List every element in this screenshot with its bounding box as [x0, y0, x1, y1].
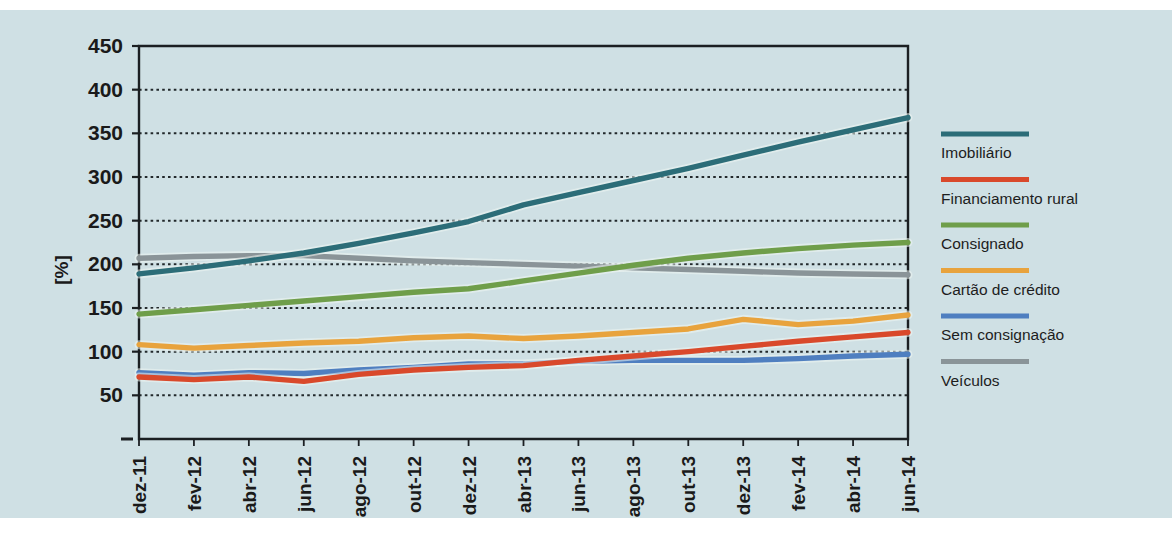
x-tick-label: out-13	[678, 456, 699, 513]
legend-group: ImobiliárioFinanciamento ruralConsignado…	[941, 134, 1078, 389]
x-tick-label: dez-13	[733, 456, 754, 515]
x-tick-labels-group: dez-11fev-12abr-12jun-12ago-12out-12dez-…	[129, 456, 919, 518]
legend-item[interactable]: Financiamento rural	[941, 180, 1078, 207]
y-tick-label: 400	[88, 78, 123, 101]
x-tick-label: abr-12	[239, 456, 260, 513]
y-tick-label: 100	[88, 340, 123, 363]
legend-item[interactable]: Sem consignação	[941, 316, 1064, 343]
y-tick-label: 250	[88, 209, 123, 232]
line-chart: 45040035030025020015010050 dez-11fev-12a…	[0, 0, 1172, 546]
y-tick-label: 350	[88, 121, 123, 144]
legend-label: Veículos	[941, 372, 1000, 389]
y-tick-label: 450	[88, 34, 123, 57]
x-tick-label: jun-14	[898, 456, 919, 513]
y-axis-title-group: [%]	[51, 255, 72, 285]
y-tick-labels-group: 45040035030025020015010050	[88, 34, 123, 406]
legend-item[interactable]: Consignado	[941, 225, 1029, 252]
y-tick-label: 300	[88, 165, 123, 188]
legend-label: Financiamento rural	[941, 190, 1078, 207]
y-tick-label: 50	[100, 383, 123, 406]
legend-item[interactable]: Cartão de crédito	[941, 271, 1060, 298]
series-group	[139, 118, 908, 382]
x-tick-label: fev-12	[184, 456, 205, 511]
y-axis-title: [%]	[51, 255, 72, 285]
x-tick-label: jun-12	[294, 456, 315, 513]
x-tick-label: out-12	[404, 456, 425, 513]
legend-label: Cartão de crédito	[941, 281, 1060, 298]
x-tick-label: jun-13	[568, 456, 589, 513]
y-tick-label: 200	[88, 252, 123, 275]
x-tick-label: dez-12	[459, 456, 480, 515]
x-tick-label: fev-14	[788, 456, 809, 511]
x-tick-label: ago-12	[349, 456, 370, 517]
x-tick-label: abr-14	[843, 456, 864, 513]
legend-label: Imobiliário	[941, 144, 1012, 161]
legend-item[interactable]: Veículos	[941, 362, 1029, 389]
figure-container: 45040035030025020015010050 dez-11fev-12a…	[0, 0, 1172, 546]
legend-label: Consignado	[941, 235, 1024, 252]
y-tick-label: 150	[88, 296, 123, 319]
legend-label: Sem consignação	[941, 326, 1064, 343]
legend-item[interactable]: Imobiliário	[941, 134, 1029, 161]
x-tick-label: dez-11	[129, 456, 150, 515]
x-tick-label: ago-13	[623, 456, 644, 517]
x-tick-label: abr-13	[514, 456, 535, 513]
